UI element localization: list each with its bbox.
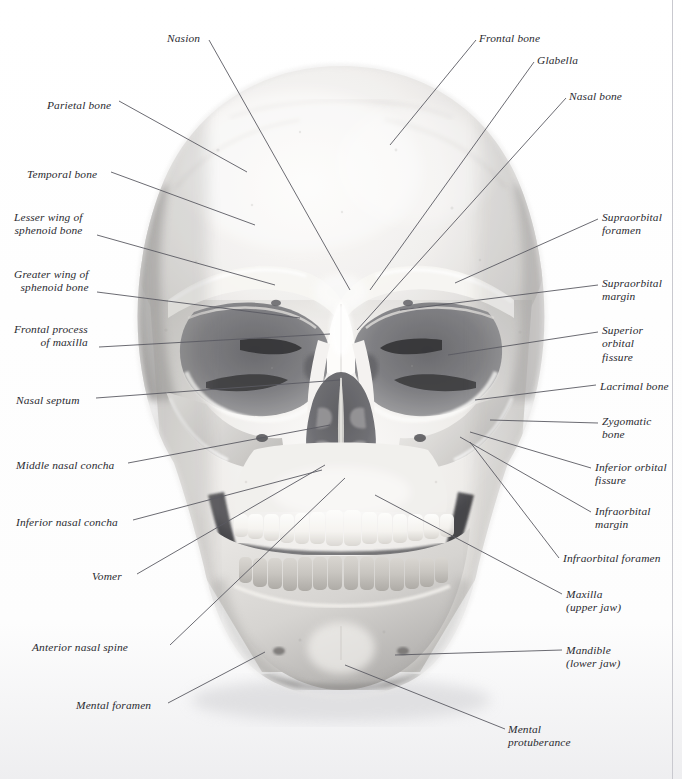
label-middle-nasal-concha: Middle nasal concha [16,459,114,472]
label-maxilla: Maxilla (upper jaw) [566,588,621,615]
label-frontal-process-maxilla: Frontal process of maxilla [14,323,88,350]
label-parietal-bone: Parietal bone [47,99,111,112]
label-anterior-nasal-spine: Anterior nasal spine [32,641,128,654]
label-frontal-bone: Frontal bone [479,32,540,45]
label-mandible: Mandible (lower jaw) [566,644,621,671]
label-supraorbital-margin: Supraorbital margin [602,277,662,304]
label-mental-protuberance: Mental protuberance [508,723,571,750]
label-superior-orbital-fissure: Superior orbital fissure [602,324,643,364]
label-nasal-bone: Nasal bone [569,90,622,103]
label-lacrimal-bone: Lacrimal bone [600,380,669,393]
label-vomer: Vomer [92,570,122,583]
label-zygomatic-bone: Zygomatic bone [602,415,651,442]
label-inferior-nasal-concha: Inferior nasal concha [16,516,118,529]
label-mental-foramen: Mental foramen [76,699,151,712]
label-glabella: Glabella [537,54,578,67]
label-greater-wing-sphenoid: Greater wing of sphenoid bone [14,268,89,295]
label-inferior-orbital-fissure: Inferior orbital fissure [595,461,667,488]
label-infraorbital-margin: Infraorbital margin [595,505,651,532]
page-margin-rule [672,0,673,779]
label-lesser-wing-sphenoid: Lesser wing of sphenoid bone [14,211,83,238]
skull-anatomy-figure: Parietal boneNasionTemporal boneLesser w… [0,0,682,779]
label-nasion: Nasion [167,32,200,45]
label-infraorbital-foramen: Infraorbital foramen [563,552,661,565]
label-nasal-septum: Nasal septum [16,394,80,407]
label-supraorbital-foramen: Supraorbital foramen [602,211,662,238]
label-temporal-bone: Temporal bone [27,168,97,181]
